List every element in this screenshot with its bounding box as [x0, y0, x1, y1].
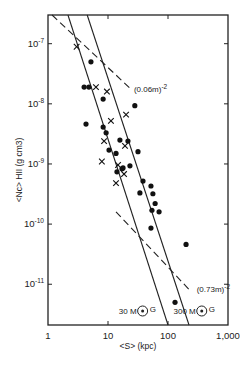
data-point-dot: [101, 125, 106, 130]
solid-300MG-line: [87, 15, 189, 325]
solid-300MG-subscript: G: [209, 305, 215, 314]
label-exponent: -2: [161, 83, 167, 90]
data-point-dot: [140, 178, 145, 183]
y-tick-exponent: -10: [35, 217, 45, 224]
data-point-dot: [106, 148, 111, 153]
x-tick-label: 1: [45, 330, 50, 341]
data-point-cross: [93, 84, 99, 90]
data-point-dot: [132, 103, 137, 108]
data-point-dot: [127, 163, 132, 168]
x-axis-label: <S> (kpc): [120, 341, 157, 351]
data-point-cross: [99, 159, 105, 165]
data-point-dot: [148, 183, 153, 188]
sun-symbol-dot-icon: [200, 309, 203, 312]
data-point-dot: [153, 201, 158, 206]
y-tick-exponent: -9: [38, 157, 44, 164]
data-point-dot: [135, 149, 140, 154]
label-exponent: -2: [224, 283, 230, 290]
dashed-006-line: [52, 15, 132, 90]
data-point-cross: [101, 138, 107, 144]
data-point-dot: [101, 96, 106, 101]
data-point-dot: [88, 59, 93, 64]
solid-30MG-label: 30 M: [119, 307, 137, 316]
data-point-dot: [137, 190, 142, 195]
data-point-cross: [113, 180, 119, 186]
data-point-cross: [108, 118, 114, 124]
data-point-dot: [125, 139, 130, 144]
y-axis-label: <Nc> HII (g cm3): [14, 137, 24, 202]
y-tick-label: 10-11: [25, 277, 45, 289]
y-tick-exponent: -11: [35, 277, 44, 284]
data-point-dot: [172, 300, 177, 305]
data-point-dot: [120, 165, 125, 170]
x-tick-label: 100: [160, 330, 176, 341]
data-point-dot: [117, 137, 122, 142]
data-point-dot: [114, 169, 119, 174]
chart: 1101001,00010-710-810-910-1010-11 (0.06m…: [0, 0, 252, 366]
data-point-dot: [82, 84, 87, 89]
data-point-dot: [148, 225, 153, 230]
data-point-dot: [150, 191, 155, 196]
y-tick-label: 10-10: [24, 217, 44, 229]
y-tick-exponent: -7: [38, 37, 44, 44]
y-tick-label: 10-8: [28, 97, 45, 109]
solid-30MG-subscript: G: [150, 305, 156, 314]
y-tick-label: 10-9: [28, 157, 45, 169]
sun-symbol-dot-icon: [141, 309, 144, 312]
data-point-dot: [104, 130, 109, 135]
data-point-cross: [121, 171, 127, 177]
data-point-cross: [104, 89, 110, 95]
data-point-cross: [123, 112, 129, 118]
data-point-dot: [83, 122, 88, 127]
y-tick-exponent: -8: [38, 97, 44, 104]
y-tick-label: 10-7: [28, 37, 45, 49]
data-point-dot: [183, 242, 188, 247]
x-tick-label: 10: [103, 330, 114, 341]
solid-300MG-label: 300 M: [174, 307, 197, 316]
data-point-dot: [149, 208, 154, 213]
x-tick-label: 1,000: [216, 330, 240, 341]
dashed-073-label: (0.73m)-2: [197, 283, 231, 294]
data-point-dot: [113, 151, 118, 156]
data-point-dot: [86, 84, 91, 89]
data-point-cross: [122, 143, 128, 149]
data-point-dot: [156, 209, 161, 214]
dashed-006-label: (0.06m)-2: [134, 83, 168, 94]
